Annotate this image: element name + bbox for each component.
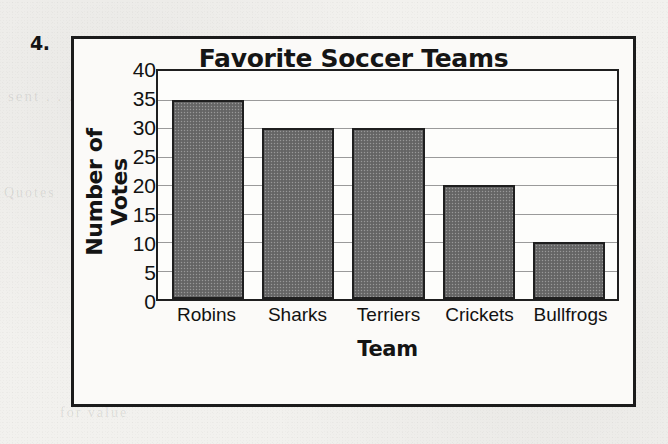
y-axis-tick-label: 25	[133, 146, 156, 167]
problem-number: 4.	[30, 32, 49, 54]
x-axis-tick-label: Robins	[161, 304, 252, 326]
bar-sharks	[262, 128, 334, 299]
plot-area	[156, 69, 619, 301]
y-axis-tick-labels: 0510152025303540	[112, 69, 156, 301]
y-axis-tick-label: 40	[133, 59, 156, 80]
bar-slot	[253, 71, 343, 299]
y-axis-tick-label: 5	[144, 262, 156, 283]
bar-bullfrogs	[533, 242, 605, 299]
x-axis-title: Team	[156, 337, 619, 361]
bar-slot	[163, 71, 253, 299]
y-axis-tick-label: 30	[133, 117, 156, 138]
worksheet-page: sent . . . Quotes the num . . . for valu…	[0, 0, 668, 444]
x-axis-tick-label: Crickets	[434, 304, 525, 326]
x-axis-tick-labels: RobinsSharksTerriersCricketsBullfrogs	[156, 304, 619, 326]
paper-bleed-text: for value	[60, 405, 128, 421]
bar-slot	[343, 71, 433, 299]
bar-crickets	[443, 185, 515, 299]
x-axis-tick-label: Sharks	[252, 304, 343, 326]
y-axis-tick-label: 10	[133, 233, 156, 254]
y-axis-tick-label: 20	[133, 175, 156, 196]
x-axis-tick-label: Terriers	[343, 304, 434, 326]
bar-slot	[524, 71, 614, 299]
chart-frame: Favorite Soccer Teams Number of Votes 05…	[71, 36, 636, 407]
bar-robins	[172, 100, 244, 300]
bar-series	[158, 71, 617, 299]
y-axis-tick-label: 15	[133, 204, 156, 225]
paper-bleed-text: sent . . .	[8, 88, 75, 105]
paper-bleed-text: Quotes	[4, 185, 56, 201]
x-axis-tick-label: Bullfrogs	[525, 304, 616, 326]
bar-terriers	[352, 128, 424, 299]
y-axis-tick-label: 35	[133, 88, 156, 109]
bar-slot	[434, 71, 524, 299]
y-axis-tick-label: 0	[144, 291, 156, 312]
